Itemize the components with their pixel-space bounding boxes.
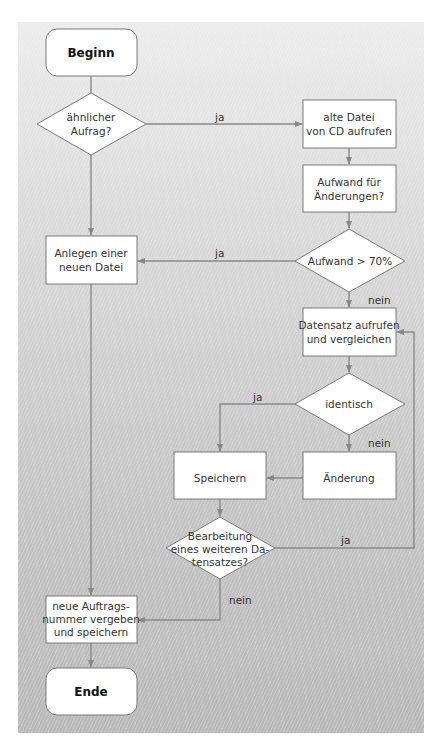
edge-label-similar-order-ja: ja (214, 111, 224, 123)
edge-process-another-nein (138, 579, 220, 620)
node-create-new-file (46, 236, 137, 284)
edge-label-identical-nein: nein (368, 437, 391, 449)
identical-label: identisch (325, 398, 373, 410)
effort-gt-70-label: Aufwand > 70% (308, 255, 393, 267)
flowchart: Beginn ähnlicher Aufrag? alte Datei von … (0, 0, 436, 749)
load-old-file-label-2: von CD aufrufen (306, 125, 392, 137)
change-label: Änderung (323, 472, 374, 484)
effort-changes-label-1: Aufwand für (317, 176, 381, 188)
process-another-label-1: Bearbeitung (188, 530, 253, 542)
load-compare-label-2: und vergleichen (307, 333, 392, 345)
edge-label-effort70-ja: ja (214, 247, 224, 259)
edge-label-effort70-nein: nein (368, 294, 391, 306)
start-label: Beginn (67, 46, 114, 60)
node-effort-changes (303, 165, 396, 212)
create-new-file-label-1: Anlegen einer (54, 247, 128, 259)
load-old-file-label-1: alte Datei (323, 111, 374, 123)
edge-label-identical-ja: ja (252, 391, 262, 403)
edge-label-process-another-ja: ja (340, 534, 350, 546)
node-load-compare-record (303, 308, 396, 356)
similar-order-label-2: Aufrag? (71, 125, 112, 137)
save-label: Speichern (194, 472, 246, 484)
edge-identical-ja (220, 404, 295, 451)
similar-order-label-1: ähnlicher (67, 111, 116, 123)
node-similar-order (37, 93, 146, 155)
create-new-file-label-2: neuen Datei (59, 261, 123, 273)
process-another-label-3: tensatzes? (192, 556, 248, 568)
process-another-label-2: eines weiteren Da- (171, 543, 270, 555)
edge-process-another-ja (275, 332, 414, 548)
effort-changes-label-2: Änderungen? (314, 190, 384, 202)
load-compare-label-1: Datensatz aufrufen (298, 319, 399, 331)
node-load-old-file (303, 100, 396, 148)
edge-label-process-another-nein: nein (229, 594, 252, 606)
new-order-number-label-3: und speichern (54, 626, 129, 638)
end-label: Ende (74, 685, 107, 699)
new-order-number-label-1: neue Auftrags- (52, 600, 130, 612)
new-order-number-label-2: nummer vergeben (42, 613, 140, 625)
